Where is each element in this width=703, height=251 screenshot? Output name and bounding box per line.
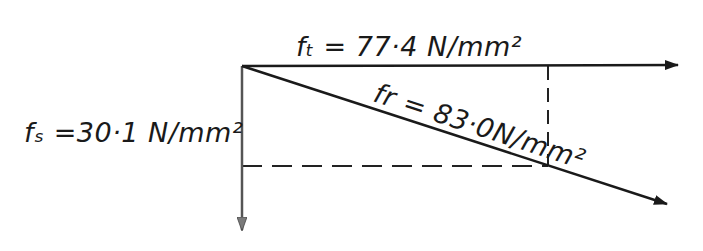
ft-vector-arrow — [242, 65, 678, 66]
fr-label: fr = 83·0N/mm² — [370, 77, 589, 175]
fs-label: fₛ =30·1 N/mm² — [24, 117, 243, 148]
ft-label: fₜ = 77·4 N/mm² — [296, 31, 522, 62]
stress-vector-diagram: fₜ = 77·4 N/mm² fₛ =30·1 N/mm² fr = 83·0… — [0, 0, 703, 251]
fr-resultant-arrow — [242, 66, 667, 204]
